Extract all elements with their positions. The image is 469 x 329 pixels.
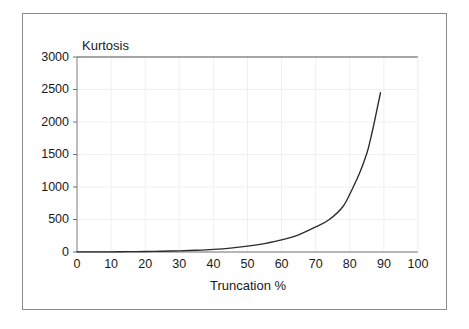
x-tick-label: 0 (74, 257, 81, 271)
y-axis-ticks (73, 57, 77, 252)
x-tick-label: 90 (377, 257, 391, 271)
y-tick-label: 0 (62, 245, 69, 259)
y-tick-label: 3000 (41, 50, 69, 64)
x-axis-tick-labels: 0102030405060708090100 (74, 257, 429, 271)
x-tick-label: 40 (206, 257, 220, 271)
x-tick-label: 20 (138, 257, 152, 271)
x-tick-label: 80 (343, 257, 357, 271)
kurtosis-curve (77, 93, 380, 252)
x-tick-label: 10 (104, 257, 118, 271)
x-tick-label: 30 (172, 257, 186, 271)
chart-figure: 050010001500200025003000 010203040506070… (0, 0, 469, 329)
y-tick-label: 1500 (41, 147, 69, 161)
y-axis-title: Kurtosis (82, 38, 129, 53)
chart-canvas: 050010001500200025003000 010203040506070… (0, 0, 469, 329)
x-tick-label: 50 (241, 257, 255, 271)
y-tick-label: 2500 (41, 82, 69, 96)
x-tick-label: 60 (275, 257, 289, 271)
y-axis-tick-labels: 050010001500200025003000 (41, 50, 69, 259)
y-tick-label: 1000 (41, 180, 69, 194)
x-tick-label: 70 (309, 257, 323, 271)
y-tick-label: 500 (48, 212, 69, 226)
x-axis-title: Truncation % (210, 278, 287, 293)
x-tick-label: 100 (408, 257, 429, 271)
y-tick-label: 2000 (41, 115, 69, 129)
